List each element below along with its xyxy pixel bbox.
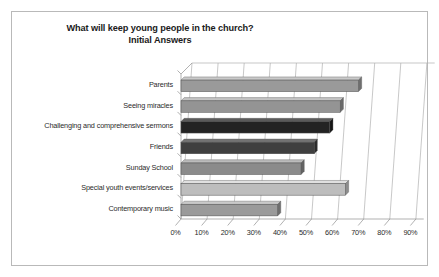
x-tick-label: 10%	[195, 228, 209, 237]
category-label: Special youth events/services	[81, 183, 173, 192]
category-label: Friends	[150, 142, 173, 151]
x-tick-label: 90%	[403, 228, 417, 237]
x-tick-label: 20%	[221, 228, 235, 237]
x-tick-label: 30%	[247, 228, 261, 237]
category-label: Parents	[149, 80, 173, 89]
bar-series	[181, 77, 362, 216]
value-axis-labels: 0%10%20%30%40%50%60%70%80%90%	[0, 222, 439, 238]
x-tick-label: 40%	[273, 228, 287, 237]
x-tick-label: 80%	[377, 228, 391, 237]
category-label: Contemporary music	[108, 204, 173, 213]
category-axis-labels: ParentsSeeing miraclesChallenging and co…	[18, 74, 177, 219]
x-tick-label: 50%	[299, 228, 313, 237]
x-tick-label: 60%	[325, 228, 339, 237]
category-label: Seeing miracles	[123, 101, 173, 110]
x-tick-label: 0%	[170, 228, 180, 237]
chart-figure: What will keep young people in the churc…	[0, 0, 439, 277]
category-label: Challenging and comprehensive sermons	[44, 121, 173, 130]
category-label: Sunday School	[126, 163, 173, 172]
x-tick-label: 70%	[351, 228, 365, 237]
